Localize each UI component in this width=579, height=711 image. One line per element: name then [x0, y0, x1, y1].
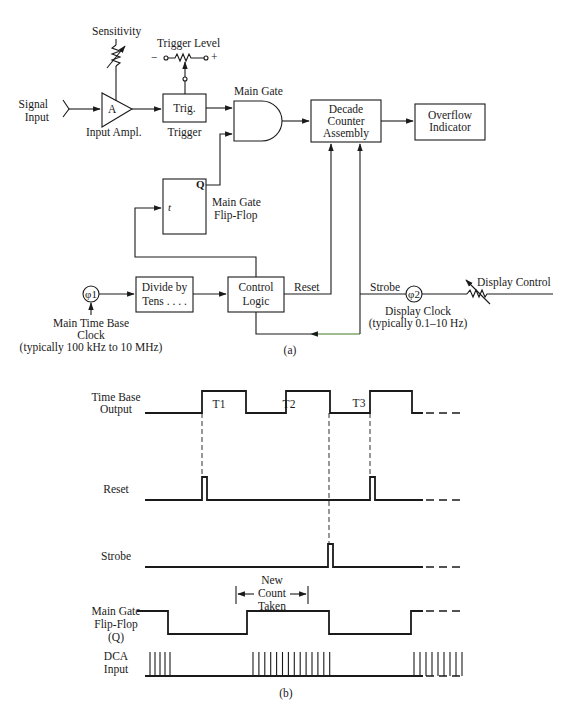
reset-wire — [284, 144, 331, 294]
input-amplifier-label: Input Ampl. — [86, 126, 142, 139]
trigger-level-terminal-minus-icon — [164, 56, 168, 60]
pulse-label-t1: T1 — [213, 398, 226, 410]
input-amplifier-triangle-icon — [102, 93, 132, 127]
main-clock-label-3: (typically 100 kHz to 10 MHz) — [20, 341, 163, 354]
signal-label-dca-2: Input — [104, 663, 129, 676]
part-b-caption: (b) — [279, 687, 293, 700]
trigger-box-label: Trig. — [173, 102, 195, 115]
overflow-indicator-label-1: Overflow — [428, 109, 473, 121]
signal-label-strobe: Strobe — [101, 550, 131, 562]
decade-counter-label-3: Assembly — [323, 127, 369, 140]
reset-waveform — [145, 477, 423, 500]
waveforms — [137, 391, 462, 676]
decade-counter-label-2: Counter — [327, 115, 364, 127]
signal-label-gate-3: (Q) — [108, 631, 124, 644]
amplifier-symbol: A — [108, 103, 117, 115]
trigger-level-minus: − — [151, 51, 158, 63]
signal-input-label-2: Input — [25, 111, 50, 124]
main-clock-label-2: Clock — [77, 329, 105, 341]
strobe-waveform — [145, 544, 423, 567]
control-logic-label-1: Control — [238, 281, 273, 293]
signal-label-time-base-2: Output — [100, 403, 133, 416]
flipflop-to-gate-wire — [206, 134, 232, 185]
trigger-level-terminal-plus-icon — [204, 56, 208, 60]
overflow-indicator-label-2: Indicator — [429, 121, 471, 133]
sensitivity-resistor-icon — [112, 45, 120, 66]
count-annotation-2: Count — [258, 587, 287, 599]
sensitivity-label: Sensitivity — [92, 25, 141, 38]
main-gate-flipflop-waveform — [137, 611, 423, 634]
display-control-label: Display Control — [477, 276, 551, 289]
frequency-counter-figure: Signal Input A Input Ampl. Sensitivity T… — [0, 0, 579, 711]
divide-by-tens-label-2: Tens . . . . — [142, 295, 187, 307]
trigger-label: Trigger — [167, 126, 201, 139]
decade-counter-label-1: Decade — [329, 103, 363, 115]
signal-label-gate-1: Main Gate — [92, 605, 141, 617]
main-gate-and-icon — [234, 101, 282, 141]
signal-label-dca-1: DCA — [104, 650, 129, 662]
main-clock-label-1: Main Time Base — [53, 317, 129, 329]
signal-label-time-base-1: Time Base — [91, 391, 140, 403]
pulse-label-t3: T3 — [353, 397, 366, 409]
block-diagram: Signal Input A Input Ampl. Sensitivity T… — [19, 25, 553, 357]
display-clock-label-2: (typically 0.1–10 Hz) — [369, 317, 468, 330]
signal-input-label: Signal — [19, 98, 48, 111]
part-a-caption: (a) — [284, 344, 297, 357]
main-clock-phi1-symbol: φ1 — [85, 288, 97, 300]
display-clock-phi2-symbol: φ2 — [408, 288, 420, 300]
count-annotation-1: New — [261, 574, 283, 586]
signal-label-reset: Reset — [103, 483, 129, 495]
flipflop-label-1: Main Gate — [212, 196, 261, 208]
control-logic-label-2: Logic — [243, 295, 270, 308]
control-to-strobe-wire — [256, 312, 311, 334]
signal-input-connector-icon — [63, 100, 69, 117]
trigger-level-potentiometer-icon — [168, 54, 204, 61]
timing-diagram: Time Base Output Reset Strobe Main Gate … — [91, 391, 462, 700]
trigger-level-plus: + — [211, 51, 218, 63]
trigger-level-wiper-terminal-icon — [183, 77, 187, 81]
main-gate-label: Main Gate — [234, 85, 283, 97]
pulse-label-t2: T2 — [283, 398, 296, 410]
strobe-line-label: Strobe — [370, 281, 400, 293]
flipflop-label-2: Flip-Flop — [214, 209, 258, 222]
flipflop-q-output: Q — [196, 178, 205, 190]
signal-label-gate-2: Flip-Flop — [94, 618, 138, 631]
divide-by-tens-label-1: Divide by — [142, 281, 188, 294]
reset-line-label: Reset — [294, 281, 320, 293]
trigger-level-label: Trigger Level — [157, 37, 220, 50]
